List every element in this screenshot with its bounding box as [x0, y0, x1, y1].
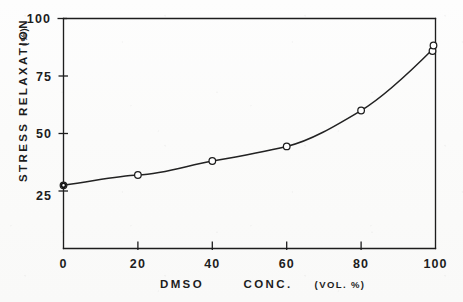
axis-frame	[64, 19, 436, 249]
y-tick-label-100: 100	[27, 12, 51, 26]
x-tick-labels: 0 20 40 60 80 100	[59, 257, 447, 271]
x-tick-label-60: 60	[279, 257, 295, 271]
data-point-20	[135, 172, 142, 179]
data-point-100-upper	[430, 42, 437, 49]
y-tick-labels: 100 75 50 25	[27, 12, 52, 203]
chart-svg: 100 75 50 25 0 20 40 60 80 100 DMSO CONC…	[0, 0, 463, 302]
x-axis-title-second: CONC.	[243, 278, 292, 290]
y-tick-label-25: 25	[36, 189, 52, 203]
x-tick-label-20: 20	[130, 257, 146, 271]
figure-container: 100 75 50 25 0 20 40 60 80 100 DMSO CONC…	[0, 0, 463, 302]
x-tick-label-40: 40	[204, 257, 220, 271]
x-tick-label-80: 80	[353, 257, 369, 271]
y-axis-title-units-group: (%)	[18, 27, 29, 46]
x-axis-title-main: DMSO	[160, 278, 204, 290]
x-axis-title-units: (VOL. %)	[315, 279, 366, 290]
fit-curve	[64, 48, 435, 185]
data-point-markers	[60, 42, 437, 188]
x-tick-label-0: 0	[59, 257, 67, 271]
data-point-60	[283, 143, 290, 150]
y-axis-ticks	[58, 19, 69, 192]
y-tick-label-75: 75	[36, 70, 52, 84]
x-tick-label-100: 100	[423, 257, 447, 271]
y-tick-label-50: 50	[36, 127, 52, 141]
y-axis-title-units: (%)	[18, 27, 29, 46]
data-point-80	[358, 107, 365, 114]
data-point-40	[209, 158, 216, 165]
